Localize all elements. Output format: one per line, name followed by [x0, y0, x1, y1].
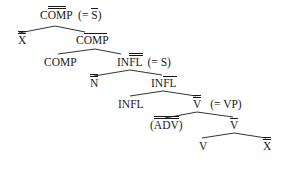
bar-line [193, 97, 201, 98]
bar-line [48, 6, 67, 7]
node-label: N [90, 77, 98, 89]
n-cat: N [90, 77, 98, 89]
node-comp-bar: COMP [76, 34, 109, 46]
single-bar-span: FL [163, 77, 176, 89]
paren-close: ) [179, 119, 183, 131]
node-label-part: C [40, 9, 48, 21]
annotation-part: S [91, 9, 97, 21]
single-bar-span: OMP [84, 34, 109, 46]
node-label-part: IN [117, 56, 129, 68]
node-x-double-bar: X [18, 34, 26, 46]
node-comp-head: COMP [44, 56, 77, 68]
bar-line [263, 137, 271, 138]
syntax-tree-diagram: COMP (= S) X COMP COMP INFL (= S) N INFL… [0, 0, 285, 169]
tree-branches [0, 0, 285, 169]
bar-line [263, 139, 271, 140]
annotation-part: (= [78, 9, 91, 21]
v-cat: V [230, 119, 238, 131]
node-n-double-bar: N [90, 77, 98, 89]
branch-root-compbar [55, 26, 85, 32]
double-bar-span: FL [129, 56, 142, 68]
branch-inflmax-inflbar [130, 70, 162, 75]
node-label: V [230, 119, 238, 131]
node-infl-double-bar: INFL (= S) [117, 56, 171, 68]
branch-vbar-v [202, 133, 234, 138]
bar-line [129, 55, 142, 56]
x-cat: X [18, 34, 26, 46]
node-label-part: IN [151, 77, 163, 89]
bar-line [84, 33, 107, 34]
bar-line [18, 31, 26, 32]
bar-line [91, 8, 97, 9]
annotation-s-bar: (= S) [78, 9, 101, 21]
branch-inflmax-spec [94, 70, 130, 76]
node-adv-double-bar-optional: (ADV) [150, 119, 183, 131]
node-v-head: V [199, 140, 207, 152]
bar-line [154, 118, 179, 119]
branch-compbar-inflmax [95, 49, 121, 54]
bar-line [163, 76, 176, 77]
annotation-s: (= S) [147, 56, 170, 68]
bar-line [193, 95, 201, 96]
bar-line [48, 8, 67, 9]
node-label-part: FL [129, 56, 142, 68]
node-label-part: OMP [84, 34, 109, 46]
node-label-part: FL [163, 77, 176, 89]
bar-line [90, 74, 98, 75]
node-infl-bar: INFL [151, 77, 177, 89]
bar-line [129, 53, 142, 54]
annotation-vp: (= VP) [210, 98, 242, 110]
s-bar: S [91, 9, 97, 21]
node-v-bar: V [230, 119, 238, 131]
node-label: INFL [118, 98, 144, 110]
v-cat: V [193, 98, 201, 110]
node-infl-head: INFL [118, 98, 144, 110]
branch-inflbar-vmax [163, 91, 196, 96]
double-bar-span: OM [48, 9, 67, 21]
node-label-part: P [66, 9, 72, 21]
bar-line [154, 116, 179, 117]
branch-compbar-comp [58, 49, 95, 54]
adv-cat: ADV [154, 119, 179, 131]
branch-vmax-vbar [197, 112, 233, 117]
bar-line [230, 118, 238, 119]
node-label: X [263, 140, 271, 152]
branch-vbar-x [234, 133, 266, 138]
node-label: ADV [154, 119, 179, 131]
node-label: V [193, 98, 201, 110]
node-x-double-bar-complement: X [263, 140, 271, 152]
annotation-part: ) [98, 9, 102, 21]
node-comp-double-bar: COMP (= S) [40, 9, 102, 21]
branch-inflbar-infl [130, 91, 163, 96]
x-cat: X [263, 140, 271, 152]
node-label-part: C [76, 34, 84, 46]
node-label: COMP [44, 56, 77, 68]
node-label: V [199, 140, 207, 152]
node-label-part: OM [48, 9, 67, 21]
bar-line [90, 76, 98, 77]
node-label: X [18, 34, 26, 46]
node-v-double-bar: V (= VP) [193, 98, 242, 110]
bar-line [18, 33, 26, 34]
